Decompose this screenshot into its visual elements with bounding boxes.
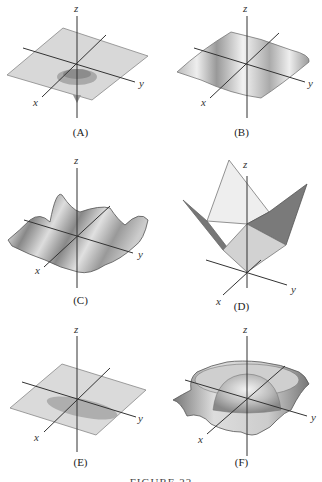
- panel-label-e: (E): [0, 456, 161, 468]
- panel-f: z y x (F): [161, 320, 322, 470]
- panel-label-f: (F): [161, 456, 322, 468]
- panel-c: z y x (C): [0, 150, 161, 320]
- surface-plot-d: [161, 150, 322, 320]
- axis-label-x: x: [34, 431, 39, 443]
- axis-label-x: x: [201, 96, 206, 108]
- panel-d: z y x (D): [161, 150, 322, 320]
- axis-label-z: z: [74, 154, 78, 166]
- axis-label-y: y: [308, 77, 313, 89]
- axis-label-z: z: [243, 158, 247, 170]
- panel-label-a: (A): [0, 126, 161, 138]
- axis-label-x: x: [35, 264, 40, 276]
- axis-label-z: z: [74, 2, 78, 14]
- axis-label-y: y: [311, 411, 316, 423]
- figure-caption: FIGURE 22: [0, 475, 322, 482]
- surface-plot-f: [161, 320, 322, 470]
- axis-label-x: x: [33, 96, 38, 108]
- axis-label-x: x: [198, 433, 203, 445]
- axis-label-y: y: [291, 283, 296, 295]
- axis-label-y: y: [138, 412, 143, 424]
- panel-label-d: (D): [161, 300, 322, 312]
- axis-label-z: z: [243, 323, 247, 335]
- surface-plot-e: [0, 320, 161, 470]
- axis-label-z: z: [74, 323, 78, 335]
- axis-label-y: y: [139, 77, 144, 89]
- panel-label-b: (B): [161, 126, 322, 138]
- panel-label-c: (C): [0, 294, 161, 306]
- panel-e: z y x (E): [0, 320, 161, 470]
- axis-label-z: z: [243, 2, 247, 14]
- axis-label-y: y: [138, 248, 143, 260]
- panel-a: z y x (A): [0, 0, 161, 150]
- panel-b: z y x (B): [161, 0, 322, 150]
